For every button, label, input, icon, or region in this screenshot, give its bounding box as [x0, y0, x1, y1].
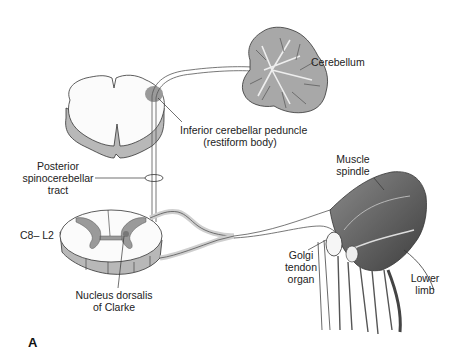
upper-cord-section: [66, 75, 165, 158]
label-nucleus-line1: Nucleus dorsalis: [74, 289, 154, 301]
label-cerebellum: Cerebellum: [311, 56, 365, 68]
label-segment-level: C8– L2: [20, 229, 54, 241]
cerebellum-drawing: [242, 27, 327, 113]
label-golgi-line2: tendon: [276, 261, 326, 273]
label-golgi-line3: organ: [276, 273, 326, 285]
label-muscle-spindle: Muscle spindle: [328, 153, 378, 177]
label-golgi-line1: Golgi: [276, 249, 326, 261]
label-inferior-cerebellar-peduncle: Inferior cerebellar peduncle (restiform …: [180, 124, 300, 148]
diagram-canvas: Cerebellum Inferior cerebellar peduncle …: [0, 0, 451, 357]
label-limb-line1: Lower: [400, 272, 450, 284]
golgi-tendon-organ: [326, 232, 342, 256]
tract-marker-ellipse: [145, 175, 163, 182]
label-spindle-line2: spindle: [328, 165, 378, 177]
label-peduncle-line1: Inferior cerebellar peduncle: [180, 124, 300, 136]
lower-limb-drawing: [308, 172, 434, 334]
label-limb-line2: limb: [400, 284, 450, 296]
label-spindle-line1: Muscle: [328, 153, 378, 165]
label-nucleus-dorsalis: Nucleus dorsalis of Clarke: [74, 289, 154, 313]
label-posterior-spinocerebellar-tract: Posterior spinocerebellar tract: [18, 160, 98, 196]
label-nucleus-line2: of Clarke: [74, 301, 154, 313]
label-golgi-tendon-organ: Golgi tendon organ: [276, 249, 326, 285]
panel-label: A: [28, 335, 37, 350]
label-lower-limb: Lower limb: [400, 272, 450, 296]
patella: [346, 246, 358, 262]
label-tract-line1: Posterior: [18, 160, 98, 172]
lower-cord-section: [60, 210, 162, 274]
label-tract-line2: spinocerebellar: [18, 172, 98, 184]
label-tract-line3: tract: [18, 184, 98, 196]
label-peduncle-line2: (restiform body): [180, 136, 300, 148]
